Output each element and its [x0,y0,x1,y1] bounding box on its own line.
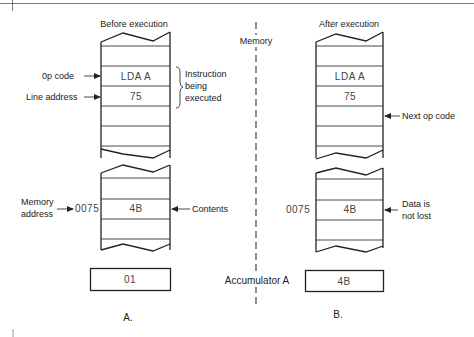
memory-address-label-line-2: address [21,209,54,219]
program-memory-block-b: LDA A 75 [316,32,383,159]
panel-a: Before execution LDA A 75 0p code Line a… [21,19,229,323]
data-memory-block-a: 4B [101,165,170,251]
contents-label: Contents [192,204,229,214]
panel-a-caption: A. [123,312,132,323]
break-bottom-zigzag [101,244,170,251]
memory-cell-opcode: LDA A [121,71,151,82]
memory-cell-data: 4B [129,203,142,214]
program-memory-block-a: LDA A 75 [101,32,170,158]
accumulator-label: Accumulator A [225,275,290,286]
accumulator-value-a: 01 [124,274,136,285]
break-bottom-zigzag [101,149,170,158]
instruction-brace-line-3: executed [185,93,222,103]
diagram-canvas: Memory Accumulator A Before execution LD… [0,0,474,337]
break-bottom-zigzag [316,150,383,159]
data-not-lost-line-2: not lost [402,211,432,221]
panel-a-title: Before execution [100,19,168,29]
break-top-zigzag [101,32,170,42]
data-memory-block-b: 4B [316,168,383,252]
memory-cell-operand: 75 [344,91,356,102]
memory-label: Memory [240,36,273,46]
accumulator-value-b: 4B [337,276,350,287]
panel-b-caption: B. [333,309,342,320]
next-op-code-label: Next op code [402,111,455,121]
memory-address-label-line-1: Memory [21,197,54,207]
data-address-b: 0075 [286,204,310,215]
break-bottom-zigzag [316,246,383,252]
data-address-a: 0075 [75,203,99,214]
break-top-zigzag [316,168,383,175]
memory-cell-opcode: LDA A [335,71,365,82]
instruction-brace-line-1: Instruction [185,69,227,79]
instruction-brace-line-2: being [185,81,207,91]
break-top-zigzag [316,32,383,42]
memory-cell-data: 4B [343,204,356,215]
panel-b: After execution LDA A 75 Next op code [286,19,455,320]
break-top-zigzag [101,165,170,173]
memory-execution-diagram: Memory Accumulator A Before execution LD… [0,0,474,337]
op-code-label: 0p code [42,71,74,81]
memory-cell-operand: 75 [130,91,142,102]
instruction-brace [176,67,183,108]
panel-b-title: After execution [319,19,379,29]
data-not-lost-line-1: Data is [402,199,431,209]
line-address-label: Line address [26,92,78,102]
